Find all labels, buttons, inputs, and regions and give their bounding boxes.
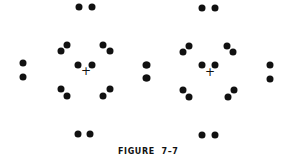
dot	[212, 132, 219, 139]
figure-caption: FIGURE 7–7	[118, 147, 178, 156]
dot	[225, 94, 232, 101]
dot	[231, 87, 238, 94]
dot	[224, 43, 231, 50]
dot	[180, 87, 187, 94]
dot	[58, 86, 65, 93]
dot	[267, 76, 274, 83]
plus-center-icon: +	[205, 66, 215, 78]
dot	[20, 60, 27, 67]
dot	[100, 93, 107, 100]
dot	[199, 132, 206, 139]
dot	[107, 48, 114, 55]
dot	[267, 62, 274, 69]
dot	[64, 42, 71, 49]
dot	[186, 94, 193, 101]
dot	[76, 4, 83, 11]
dot	[107, 86, 114, 93]
dot	[144, 75, 151, 82]
dot	[89, 4, 96, 11]
dot	[64, 93, 71, 100]
dot	[144, 62, 151, 69]
dot	[87, 131, 94, 138]
dot	[100, 42, 107, 49]
dot	[199, 5, 206, 12]
dot	[75, 131, 82, 138]
dot	[186, 43, 193, 50]
dot	[212, 5, 219, 12]
figure-canvas: + + FIGURE 7–7	[0, 0, 294, 159]
dot	[180, 49, 187, 56]
plus-center-icon: +	[81, 65, 91, 77]
dot	[230, 49, 237, 56]
dot	[58, 48, 65, 55]
dot	[20, 74, 27, 81]
